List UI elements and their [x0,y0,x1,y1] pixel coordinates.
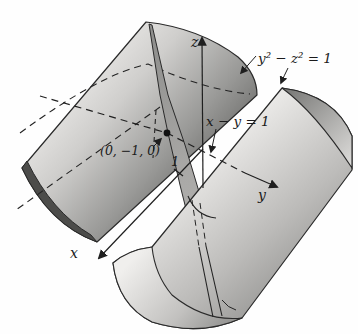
point-marker [164,130,171,137]
plane-equation-label: x − y = 1 [206,113,270,129]
point-label: (0, −1, 0) [100,143,160,158]
cylinder-equation-label: y² − z² = 1 [257,50,332,66]
x-tick-label: 1 [171,154,179,169]
cylinder-label-leader-right [281,68,288,83]
x-axis-label: x [70,245,78,261]
figure-canvas: z y x y² − z² = 1 x − y = 1 (0, −1, 0) 1 [0,0,358,334]
z-axis-label: z [190,34,199,50]
figure-container: z y x y² − z² = 1 x − y = 1 (0, −1, 0) 1 [0,0,358,334]
y-axis-label: y [257,187,267,203]
